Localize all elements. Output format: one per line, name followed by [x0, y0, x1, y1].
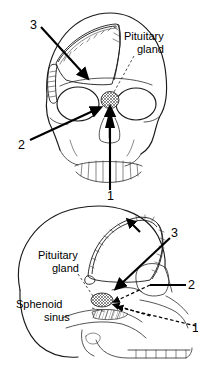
- anatomy-figure: Pituitary gland 3 2 1: [0, 0, 198, 367]
- maxilla-left: [60, 150, 78, 165]
- condyle: [86, 333, 100, 344]
- callout-number-3-top: 3: [30, 18, 37, 32]
- callout-number-1-top: 1: [107, 189, 114, 203]
- dental-arch-upper: [75, 162, 142, 167]
- arrow-route-3-flap-tip: [132, 224, 140, 232]
- arrow-route-2-top: [30, 111, 93, 140]
- pituitary-gland-marker: [101, 92, 119, 109]
- skull-base-lower: [66, 322, 146, 338]
- mandible-lateral: [96, 340, 192, 358]
- pituitary-leader-line-top: [114, 56, 134, 92]
- frontal-skull-panel: Pituitary gland 3 2 1: [18, 13, 167, 203]
- orbit-left: [57, 87, 99, 121]
- sphenoid-sinus-marker: [92, 310, 128, 320]
- callout-number-3-bottom: 3: [171, 226, 178, 240]
- callout-number-1-bottom: 1: [192, 321, 198, 335]
- label-pituitary-gland-top-line2: gland: [137, 43, 164, 55]
- teeth-lateral: [136, 350, 186, 358]
- mandible-ramus: [82, 330, 95, 356]
- skull-diagram-svg: Pituitary gland 3 2 1: [0, 0, 198, 367]
- cheek-crease-right: [127, 140, 134, 156]
- dental-arch-lower: [76, 172, 141, 183]
- arrow-route-3-bottom: [122, 238, 170, 283]
- label-pituitary-gland-top-line1: Pituitary: [124, 30, 164, 42]
- label-pituitary-gland-bottom-line1: Pituitary: [38, 249, 78, 261]
- label-pituitary-gland-bottom-line2: gland: [52, 262, 79, 274]
- label-sphenoid-sinus-line1: Sphenoid: [16, 298, 63, 310]
- pituitary-gland-marker-lateral: [91, 293, 113, 307]
- arrow-route-1-flare: [105, 108, 115, 128]
- maxilla-lateral: [140, 300, 188, 328]
- nasal-lateral: [166, 296, 188, 314]
- label-sphenoid-sinus-line2: sinus: [44, 311, 70, 323]
- cheek-crease-left: [70, 140, 77, 156]
- lateral-skull-panel: Pituitary gland Sphenoid sinus 3 2 1: [16, 206, 198, 358]
- orbit-right: [116, 88, 156, 120]
- arrow-route-2-bottom-dashed: [118, 285, 150, 300]
- cranial-bone-flap-lateral: [85, 215, 165, 284]
- bone-flap-hatching-left: [48, 71, 56, 97]
- callout-number-2-bottom: 2: [188, 278, 195, 292]
- callout-number-2-top: 2: [18, 138, 25, 152]
